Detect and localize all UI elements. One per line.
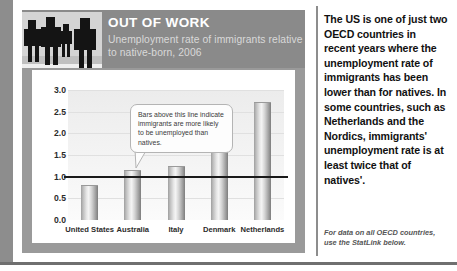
page-gutter-left [0,0,13,262]
reference-line [64,176,288,178]
chart-plot-wrapper: 0.00.51.01.52.02.53.0 United StatesAustr… [32,70,295,243]
y-axis-tick-label: 3.0 [42,86,66,95]
chart-card: 0.00.51.01.52.02.53.0 United StatesAustr… [32,70,295,243]
y-axis-tick-label: 0.5 [42,194,66,203]
y-axis-tick-label: 2.0 [42,129,66,138]
panel-header: OUT OF WORK Unemployment rate of immigra… [22,10,305,68]
sidebar-footnote: For data on all OECD countries, use the … [324,228,450,248]
x-axis-tick-label: Italy [168,225,183,234]
column-divider [316,6,318,256]
panel-title: OUT OF WORK [108,15,303,31]
page-bottom-margin [0,265,457,271]
bar [124,170,141,220]
x-axis-tick-label: Denmark [203,225,236,234]
x-axis-tick-label: Australia [117,225,150,234]
y-axis: 0.00.51.01.52.02.53.0 [38,70,66,243]
bar [168,166,185,220]
y-axis-tick-label: 0.0 [42,216,66,225]
y-axis-tick-label: 2.5 [42,107,66,116]
plot-area: United StatesAustraliaItalyDenmarkNether… [68,90,284,220]
page-root: OUT OF WORK Unemployment rate of immigra… [0,0,457,271]
bar [81,185,98,220]
chart-panel-inner: OUT OF WORK Unemployment rate of immigra… [22,10,305,253]
panel-header-text: OUT OF WORK Unemployment rate of immigra… [108,15,303,59]
chart-panel: OUT OF WORK Unemployment rate of immigra… [22,10,305,253]
sidebar-lede: The US is one of just two OECD countries… [324,12,448,187]
chart-annotation-callout: Bars above this line indicate immigrants… [130,104,233,153]
sidebar-text-column: The US is one of just two OECD countries… [324,12,448,187]
people-silhouettes-photo [22,12,102,68]
panel-subtitle: Unemployment rate of immigrants relative… [108,33,303,59]
y-axis-tick-label: 1.5 [42,151,66,160]
x-axis-tick-label: Netherlands [240,225,284,234]
y-axis-tick-label: 1.0 [42,172,66,181]
bar [254,102,271,220]
x-axis-tick-label: United States [65,225,114,234]
gridline [68,155,284,156]
gridline [68,90,284,91]
